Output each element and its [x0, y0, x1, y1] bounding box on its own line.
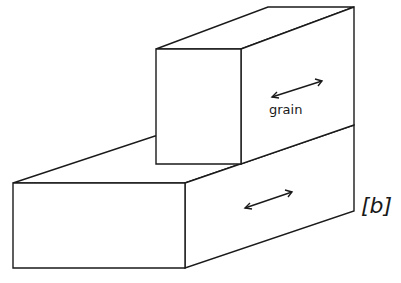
- bottom-block-front-face: [13, 183, 185, 268]
- top-block-front-face: [156, 49, 241, 164]
- block-diagram: grain [b]: [0, 0, 401, 283]
- panel-label: [b]: [361, 193, 392, 218]
- grain-label: grain: [269, 102, 302, 117]
